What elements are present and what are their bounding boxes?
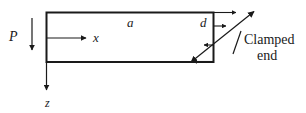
x-axis-label: x: [93, 31, 99, 44]
beam-length-label: a: [127, 16, 134, 29]
z-axis-label: z: [45, 97, 50, 109]
load-label-p: P: [9, 30, 18, 44]
clamped-end-pointer: [233, 31, 241, 54]
beam-diagram-figure: a x z P d Clamped end: [0, 0, 306, 113]
clamped-end-label-line1: Clamped: [244, 33, 295, 47]
depth-label-d: d: [200, 16, 207, 29]
clamped-end-label-line2: end: [257, 49, 277, 63]
